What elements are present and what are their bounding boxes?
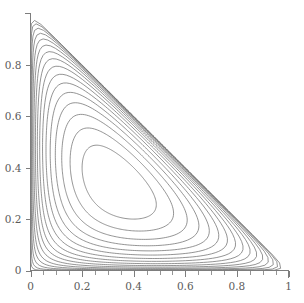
contour-line: [55, 103, 199, 246]
contour-line: [40, 66, 236, 261]
contour-plot-figure: 00.20.40.60.81 00.20.40.60.8: [0, 0, 304, 303]
y-tick-label: 0.6: [5, 110, 22, 122]
contour-lines-group: [31, 20, 281, 270]
x-tick-label: 0: [27, 280, 34, 292]
y-tick-label: 0.2: [5, 213, 22, 225]
y-tick-label: 0.8: [5, 59, 22, 71]
x-tick-label: 1: [285, 280, 292, 292]
x-axis-ticks-group: [32, 271, 290, 277]
contour-line: [46, 83, 219, 255]
contour-line: [37, 59, 243, 264]
x-tick-label: 0.4: [125, 280, 142, 292]
x-axis-tick-labels-group: 00.20.40.60.81: [27, 280, 292, 292]
contour-line: [34, 45, 257, 267]
y-axis-tick-labels-group: 00.20.40.60.8: [5, 59, 22, 277]
x-tick-label: 0.2: [74, 280, 91, 292]
contour-line: [35, 52, 250, 266]
contour-line: [33, 39, 263, 268]
x-tick-label: 0.6: [177, 280, 194, 292]
y-axis-ticks-group: [26, 66, 31, 272]
y-tick-label: 0: [15, 264, 22, 276]
contour-line: [82, 145, 156, 219]
y-tick-label: 0.4: [5, 162, 22, 174]
contour-plot-canvas: 00.20.40.60.81 00.20.40.60.8: [0, 0, 304, 303]
x-tick-label: 0.8: [229, 280, 246, 292]
